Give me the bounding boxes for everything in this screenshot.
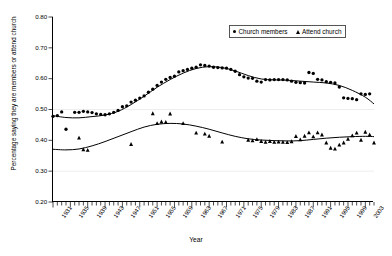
data-point-triangle — [320, 133, 324, 137]
data-point-triangle — [203, 132, 207, 136]
data-point-triangle — [277, 140, 281, 144]
data-point-circle — [64, 128, 67, 131]
data-point-triangle — [333, 147, 337, 151]
data-point-circle — [338, 85, 341, 88]
data-point-circle — [121, 105, 124, 108]
data-point-circle — [234, 70, 237, 73]
x-tick-label: 2003 — [373, 205, 385, 219]
data-point-circle — [173, 75, 176, 78]
data-point-circle — [51, 115, 54, 118]
data-point-circle — [90, 111, 93, 114]
x-tick-label: 1991 — [321, 205, 333, 219]
x-tick-label: 1935 — [78, 205, 90, 219]
data-point-triangle — [207, 134, 211, 138]
data-point-circle — [277, 78, 280, 81]
data-point-circle — [286, 78, 289, 81]
y-axis-title-wrapper: Percentage saying they are members or at… — [2, 0, 14, 202]
data-point-circle — [142, 94, 145, 97]
y-tick-label: 0.20 — [22, 199, 47, 205]
data-point-circle — [216, 66, 219, 69]
data-point-circle — [82, 110, 85, 113]
data-point-circle — [247, 76, 250, 79]
x-tick-label: 1975 — [251, 205, 263, 219]
x-tick-label: 1955 — [165, 205, 177, 219]
data-point-triangle — [372, 141, 376, 145]
data-point-triangle — [368, 133, 372, 137]
data-point-circle — [147, 91, 150, 94]
data-point-circle — [60, 110, 63, 113]
data-point-triangle — [350, 133, 354, 137]
data-point-triangle — [359, 138, 363, 142]
data-point-circle — [359, 92, 362, 95]
legend-entry-church-members: Church members — [233, 28, 288, 35]
data-point-circle — [346, 97, 349, 100]
x-tick-label: 1967 — [217, 205, 229, 219]
chart-legend: Church members Attend church — [229, 25, 346, 38]
data-point-triangle — [86, 148, 90, 152]
data-point-circle — [290, 79, 293, 82]
data-point-circle — [151, 88, 154, 91]
data-point-triangle — [164, 120, 168, 124]
data-point-triangle — [355, 131, 359, 135]
data-point-circle — [221, 66, 224, 69]
series-attend-church — [53, 111, 376, 152]
axis-ticks — [49, 17, 375, 208]
data-point-triangle — [168, 112, 172, 116]
data-point-circle — [320, 78, 323, 81]
x-tick-label: 1983 — [286, 205, 298, 219]
data-point-circle — [238, 73, 241, 76]
data-point-circle — [195, 66, 198, 69]
data-point-circle — [177, 70, 180, 73]
data-point-circle — [181, 69, 184, 72]
data-point-circle — [325, 80, 328, 83]
data-point-circle — [333, 81, 336, 84]
data-point-circle — [255, 79, 258, 82]
x-tick-label: 1951 — [147, 205, 159, 219]
data-point-circle — [155, 84, 158, 87]
data-point-circle — [364, 93, 367, 96]
data-point-circle — [281, 78, 284, 81]
data-point-circle — [264, 78, 267, 81]
data-point-circle — [225, 67, 228, 70]
x-tick-label: 1959 — [182, 205, 194, 219]
data-point-circle — [95, 112, 98, 115]
data-point-circle — [351, 97, 354, 100]
legend-label-church-members: Church members — [239, 28, 288, 35]
data-point-triangle — [363, 130, 367, 134]
plot-area — [52, 17, 373, 202]
series-church-members — [51, 63, 374, 131]
data-point-triangle — [155, 121, 159, 125]
data-point-circle — [56, 114, 59, 117]
data-point-circle — [103, 113, 106, 116]
data-point-circle — [99, 113, 102, 116]
y-tick-label: 0.30 — [22, 168, 47, 174]
data-point-triangle — [346, 137, 350, 141]
x-tick-label: 1943 — [113, 205, 125, 219]
data-point-triangle — [129, 142, 133, 146]
data-point-triangle — [342, 141, 346, 145]
data-point-circle — [329, 81, 332, 84]
data-point-circle — [116, 109, 119, 112]
data-point-circle — [273, 78, 276, 81]
data-point-triangle — [307, 130, 311, 134]
legend-label-attend-church: Attend church — [302, 28, 341, 35]
data-point-circle — [168, 76, 171, 79]
x-tick-label: 1939 — [95, 205, 107, 219]
data-point-circle — [342, 96, 345, 99]
data-point-circle — [299, 81, 302, 84]
data-point-circle — [303, 81, 306, 84]
data-point-circle — [199, 63, 202, 66]
data-point-circle — [229, 68, 232, 71]
data-point-circle — [134, 99, 137, 102]
data-point-triangle — [329, 146, 333, 150]
data-point-circle — [316, 78, 319, 81]
data-point-triangle — [194, 131, 198, 135]
data-point-triangle — [316, 130, 320, 134]
data-point-triangle — [181, 121, 185, 125]
data-point-circle — [129, 100, 132, 103]
data-point-triangle — [337, 143, 341, 147]
data-point-circle — [108, 112, 111, 115]
data-point-circle — [86, 110, 89, 113]
data-point-triangle — [77, 136, 81, 140]
data-point-circle — [125, 104, 128, 107]
